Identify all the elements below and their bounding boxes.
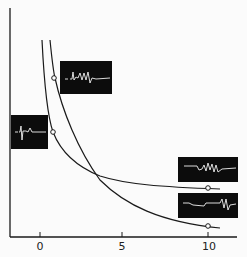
inset-trace-2 [11, 115, 48, 149]
marker-a-end [206, 186, 211, 191]
inset-trace-4 [178, 193, 238, 218]
x-tick-label-5: 5 [119, 240, 126, 253]
marker-b-end [206, 224, 211, 229]
marker-a-start [51, 130, 56, 135]
x-tick-label-10: 10 [202, 240, 216, 253]
x-tick-label-0: 0 [37, 240, 44, 253]
chart-plot [0, 0, 247, 257]
marker-b-start [52, 76, 57, 81]
inset-trace-3 [178, 157, 238, 182]
inset-trace-1 [60, 61, 112, 94]
